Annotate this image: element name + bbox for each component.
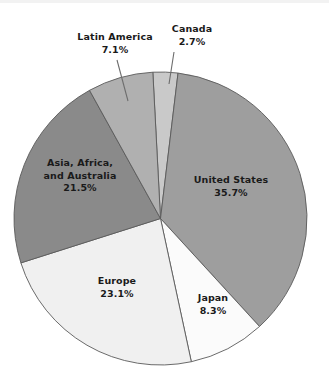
slice-label-japan-value: 8.3%: [185, 305, 241, 318]
slice-label-canada: Canada 2.7%: [164, 23, 220, 48]
pie-slice-group: [14, 72, 307, 365]
slice-label-united-states-name: United States: [186, 174, 276, 187]
slice-label-canada-name: Canada: [164, 23, 220, 36]
slice-label-asia-value: 21.5%: [27, 182, 133, 195]
slice-label-europe-value: 23.1%: [78, 288, 156, 301]
slice-label-asia-name-line1: Asia, Africa,: [27, 157, 133, 170]
slice-label-latin-america-name: Latin America: [71, 31, 159, 44]
pie-chart-figure: United States 35.7% Japan 8.3% Europe 23…: [0, 0, 329, 383]
slice-label-latin-america-value: 7.1%: [71, 44, 159, 57]
slice-label-latin-america: Latin America 7.1%: [71, 31, 159, 56]
slice-label-europe: Europe 23.1%: [78, 275, 156, 300]
slice-label-united-states-value: 35.7%: [186, 187, 276, 200]
slice-label-canada-value: 2.7%: [164, 36, 220, 49]
slice-label-asia-name-line2: and Australia: [27, 170, 133, 183]
slice-label-united-states: United States 35.7%: [186, 174, 276, 199]
slice-label-japan-name: Japan: [185, 292, 241, 305]
slice-label-asia-africa-australia: Asia, Africa, and Australia 21.5%: [27, 157, 133, 195]
slice-label-japan: Japan 8.3%: [185, 292, 241, 317]
slice-label-europe-name: Europe: [78, 275, 156, 288]
